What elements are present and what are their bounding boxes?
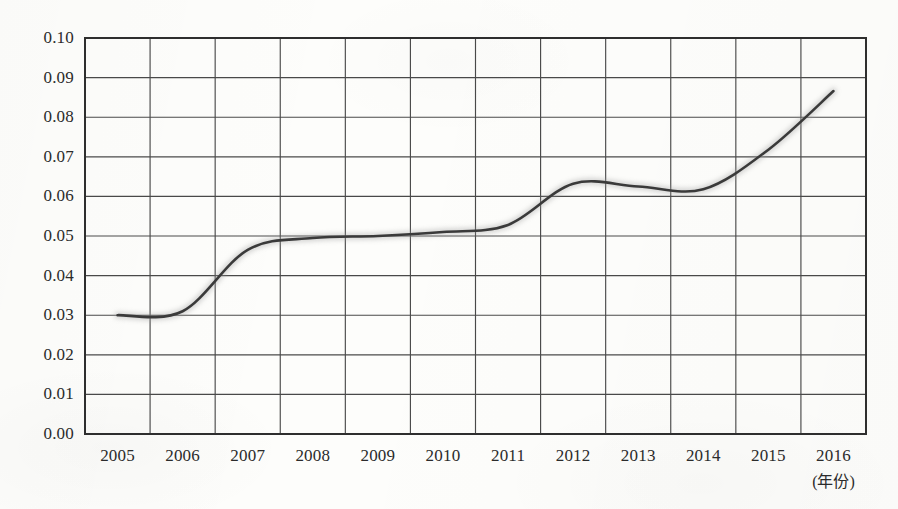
chart-plot [0, 0, 898, 509]
gridlines [85, 38, 866, 434]
chart-page: 0.000.010.020.030.040.050.060.070.080.09… [0, 0, 898, 509]
